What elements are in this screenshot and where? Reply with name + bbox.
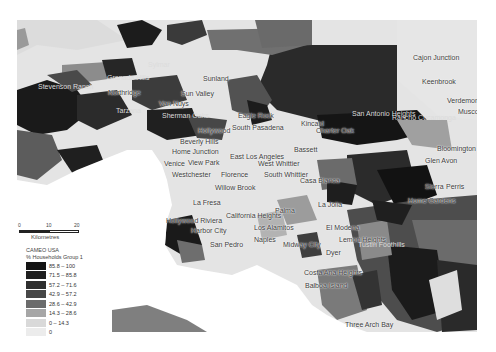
legend-row: 42.9 – 57.2 [26,290,83,300]
legend-swatch [26,319,46,327]
place-label: Dyer [326,249,341,257]
place-label: Van Nuys [159,100,189,108]
place-label: West Whittier [258,160,300,168]
place-label: Bassett [294,146,317,154]
place-label: La Fresa [193,199,221,207]
place-label: Beverly Hills [180,138,219,146]
scale-segment-light [49,230,79,233]
place-label: Bloomington [437,145,476,153]
place-label: Florence [221,171,248,179]
place-label: Naples [254,236,276,244]
place-label: California Heights [226,212,281,220]
place-label: Tarzana [116,107,141,115]
legend: CAMEO USA % Households Group 1 85.8 – 10… [26,247,83,337]
place-label: Stevenson Ranch [38,83,93,91]
place-label: Hollywood Riviera [166,217,222,225]
place-label: Costa Ana Heights [304,269,362,277]
legend-swatch [26,309,46,317]
place-label: Harbor City [191,227,226,235]
legend-row: 71.5 – 85.8 [26,271,83,281]
place-label: Sierra [425,183,444,191]
place-label: Keenbrook [422,78,456,86]
scale-segment-dark [19,230,49,233]
legend-row: 57.2 – 71.6 [26,280,83,290]
place-label: Sherman Oaks [162,112,209,120]
legend-label: 57.2 – 71.6 [49,282,77,288]
place-label: Northridge [108,89,141,97]
place-label: San Pedro [210,241,243,249]
legend-swatch [26,271,46,279]
place-label: Home Junction [172,148,219,156]
legend-label: 71.5 – 85.8 [49,272,77,278]
legend-row: 0 – 14.3 [26,318,83,328]
legend-label: 28.6 – 42.9 [49,301,77,307]
place-label: Muscoy [458,108,477,116]
place-label: Granada Hills [107,74,149,82]
place-label: La Jolla [318,201,342,209]
place-label: Casa Blanca [300,177,340,185]
place-label: Cajon Junction [413,54,459,62]
place-label: Sylmar [148,61,170,69]
place-label: Glen Avon [425,157,457,165]
legend-row: 85.8 – 100 [26,261,83,271]
place-label: Charter Oak [316,127,354,135]
place-label: Perris [446,183,464,191]
legend-title: CAMEO USA [26,247,83,254]
legend-label: 42.9 – 57.2 [49,291,77,297]
scale-bar: 0 10 20 Kilometres [19,222,79,244]
place-label: Rancho Cucamonga [392,114,456,122]
legend-label: 14.3 – 28.6 [49,310,77,316]
place-label: Sunland [203,75,229,83]
place-label: Balboa Island [305,282,347,290]
place-label: Hollywood [198,127,230,135]
scale-tick-10: 10 [46,222,52,228]
place-label: Sun Valley [181,90,214,98]
choropleth-map[interactable]: Cajon JunctionKeenbrookVerdemontMuscoySy… [17,20,477,332]
place-label: Tustin Foothills [358,241,405,249]
place-label: Palma [275,207,295,215]
scale-unit: Kilometres [31,234,59,240]
legend-subtitle: % Households Group 1 [26,254,83,261]
place-label: Willow Brook [215,184,255,192]
legend-swatch [26,262,46,270]
place-label: South Pasadena [232,124,284,132]
place-label: Verdemont [447,97,477,105]
legend-row: 28.6 – 42.9 [26,299,83,309]
scale-bar-graphic [19,230,79,233]
place-label: Venice [164,160,185,168]
legend-row: 14.3 – 28.6 [26,309,83,319]
legend-swatch [26,328,46,336]
legend-swatch [26,290,46,298]
place-label: Midway City [283,241,321,249]
legend-label: 85.8 – 100 [49,263,75,269]
legend-classes: 85.8 – 10071.5 – 85.857.2 – 71.642.9 – 5… [26,261,83,337]
place-label: Three Arch Bay [345,321,393,329]
legend-swatch [26,300,46,308]
place-label: Home Gardens [408,197,455,205]
place-label: Los Alamitos [254,224,294,232]
legend-swatch [26,281,46,289]
legend-row: 0 [26,328,83,338]
place-label: View Park [188,159,219,167]
place-label: El Modena [326,224,359,232]
legend-label: 0 – 14.3 [49,320,69,326]
scale-tick-20: 20 [74,222,80,228]
place-label: Eagle Rock [238,112,274,120]
legend-label: 0 [49,329,52,335]
place-label: Westchester [172,171,211,179]
scale-tick-0: 0 [18,222,21,228]
